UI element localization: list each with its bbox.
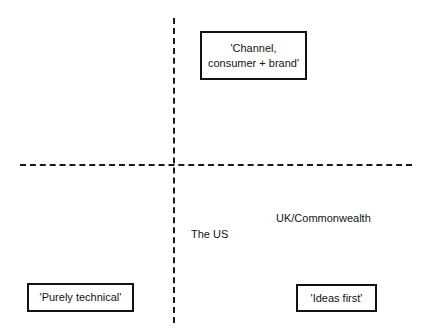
- label-the-us: The US: [191, 227, 228, 241]
- vertical-axis: [173, 18, 175, 323]
- label-uk-commonwealth: UK/Commonwealth: [276, 211, 371, 225]
- label-box-purely-technical: 'Purely technical': [27, 283, 134, 312]
- horizontal-axis: [20, 164, 412, 166]
- diagram-canvas: 'Channel, consumer + brand' 'Purely tech…: [0, 0, 431, 330]
- label-box-channel: 'Channel, consumer + brand': [200, 31, 307, 80]
- label-box-ideas-first: 'Ideas first': [296, 284, 377, 312]
